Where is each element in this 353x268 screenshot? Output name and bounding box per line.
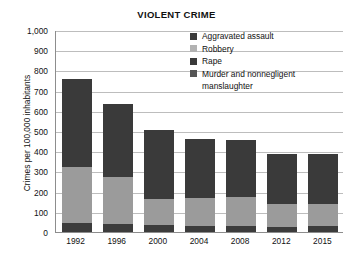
legend-item[interactable]: Aggravated assault: [190, 31, 295, 41]
legend-item[interactable]: Robbery: [190, 44, 295, 54]
x-tick-label: 1996: [102, 236, 132, 246]
y-tick-label: 300: [34, 167, 48, 177]
legend-item[interactable]: Rape: [190, 56, 295, 66]
bar-segment[interactable]: [62, 79, 92, 166]
y-tick-label: 100: [34, 208, 48, 218]
legend-label: Aggravated assault: [202, 31, 274, 41]
bar-segment[interactable]: [62, 167, 92, 223]
legend-swatch-icon: [190, 58, 197, 65]
bar-segment[interactable]: [185, 139, 215, 199]
y-tick-label: 800: [34, 66, 48, 76]
legend-swatch-icon: [190, 33, 197, 40]
x-tick-label: 2008: [225, 236, 255, 246]
bar-segment[interactable]: [144, 199, 174, 225]
bar-segment[interactable]: [267, 227, 297, 232]
legend-label: Robbery: [202, 44, 234, 54]
bar-segment[interactable]: [226, 226, 256, 232]
y-tick-label: 700: [34, 87, 48, 97]
y-tick-label: 600: [34, 107, 48, 117]
y-axis-tick-labels: 01002003004005006007008009001,000: [0, 31, 52, 233]
bar-group[interactable]: [103, 31, 133, 232]
chart-legend: Aggravated assaultRobberyRapeMurder and …: [190, 31, 295, 91]
legend-label: Murder and nonnegligent: [202, 69, 295, 79]
x-tick-label: 1992: [61, 236, 91, 246]
y-tick-label: 1,000: [27, 26, 48, 36]
y-tick-label: 400: [34, 147, 48, 157]
bar-segment[interactable]: [144, 130, 174, 199]
bar-group[interactable]: [144, 31, 174, 232]
y-tick-label: 500: [34, 127, 48, 137]
bar-segment[interactable]: [226, 140, 256, 197]
bar-segment[interactable]: [62, 223, 92, 232]
bar-segment[interactable]: [103, 224, 133, 232]
bar-segment[interactable]: [185, 198, 215, 225]
legend-item[interactable]: Murder and nonnegligent: [190, 69, 295, 79]
y-tick-label: 200: [34, 188, 48, 198]
x-tick-label: 2000: [143, 236, 173, 246]
y-tick-label: 0: [43, 228, 48, 238]
x-tick-label: 2015: [307, 236, 337, 246]
bar-segment[interactable]: [226, 197, 256, 225]
x-tick-label: 2012: [266, 236, 296, 246]
bar-group[interactable]: [308, 31, 338, 232]
legend-label-continued: manslaughter: [202, 81, 295, 91]
legend-swatch-icon: [190, 70, 197, 77]
bar-group[interactable]: [62, 31, 92, 232]
legend-label: Rape: [202, 56, 222, 66]
bar-segment[interactable]: [103, 104, 133, 177]
bar-segment[interactable]: [185, 226, 215, 232]
bar-segment[interactable]: [267, 154, 297, 204]
bar-segment[interactable]: [308, 204, 338, 227]
x-axis-tick-labels: 1992199620002004200820122015: [55, 236, 343, 246]
bar-segment[interactable]: [144, 225, 174, 232]
y-tick-label: 900: [34, 46, 48, 56]
legend-swatch-icon: [190, 45, 197, 52]
chart-title: VIOLENT CRIME: [0, 9, 353, 20]
x-tick-label: 2004: [184, 236, 214, 246]
violent-crime-chart: VIOLENT CRIME Crimes per 100,000 inhabit…: [0, 0, 353, 268]
bar-segment[interactable]: [308, 154, 338, 204]
bar-segment[interactable]: [267, 204, 297, 227]
bar-segment[interactable]: [308, 226, 338, 232]
bar-segment[interactable]: [103, 177, 133, 224]
